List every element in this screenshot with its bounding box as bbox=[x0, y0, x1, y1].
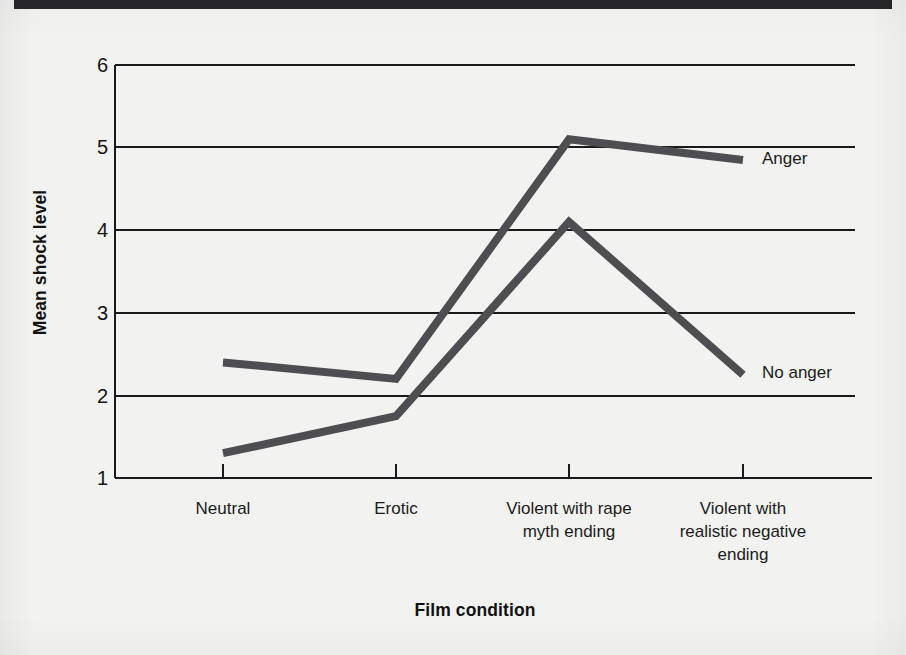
gridlines bbox=[115, 65, 855, 396]
x-tick-label-neutral: Neutral bbox=[128, 497, 318, 520]
y-tick-label-2: 2 bbox=[78, 385, 108, 408]
x-tick-label-violent-rape-myth: Violent with rape myth ending bbox=[474, 497, 664, 543]
x-tick-label-violent-rape-myth-line-1: Violent with rape bbox=[474, 497, 664, 520]
figure-page: 6 5 4 3 2 1 Neutral Erotic Violent with … bbox=[0, 0, 906, 655]
x-tick-label-erotic-line-1: Erotic bbox=[301, 497, 491, 520]
line-chart: 6 5 4 3 2 1 Neutral Erotic Violent with … bbox=[0, 0, 906, 655]
y-tick-label-6: 6 bbox=[78, 54, 108, 77]
x-tick-label-erotic: Erotic bbox=[301, 497, 491, 520]
series-label-no-anger: No anger bbox=[762, 363, 832, 383]
x-tick-label-violent-realistic-line-1: Violent with bbox=[648, 497, 838, 520]
x-tick-marks bbox=[223, 464, 743, 478]
x-axis-title: Film condition bbox=[315, 600, 635, 621]
x-tick-label-violent-realistic: Violent with realistic negative ending bbox=[648, 497, 838, 566]
y-tick-label-3: 3 bbox=[78, 302, 108, 325]
y-tick-label-4: 4 bbox=[78, 219, 108, 242]
y-axis-title: Mean shock level bbox=[30, 163, 51, 363]
y-tick-label-1: 1 bbox=[78, 467, 108, 490]
x-tick-label-violent-realistic-line-3: ending bbox=[648, 543, 838, 566]
series-label-anger: Anger bbox=[762, 149, 807, 169]
series-line-anger bbox=[223, 139, 743, 379]
x-tick-label-violent-realistic-line-2: realistic negative bbox=[648, 520, 838, 543]
x-tick-label-violent-rape-myth-line-2: myth ending bbox=[474, 520, 664, 543]
x-tick-label-neutral-line-1: Neutral bbox=[128, 497, 318, 520]
y-tick-label-5: 5 bbox=[78, 136, 108, 159]
